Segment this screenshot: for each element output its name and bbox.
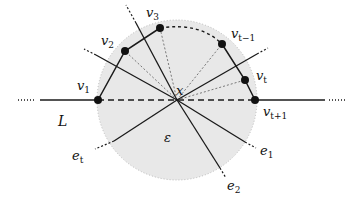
label-vt+1: vt+1	[263, 104, 287, 121]
label-L: L	[57, 113, 67, 129]
label-epsilon: ε	[164, 130, 171, 145]
vertex-vt-1	[218, 40, 226, 48]
label-v3: v3	[146, 5, 159, 22]
diagram-canvas: v1 v2 v3 vt−1 vt vt+1 x ε L et e1 e2	[0, 0, 363, 202]
vertex-vt	[241, 76, 249, 84]
label-vt-1: vt−1	[231, 26, 255, 43]
label-vt: vt	[256, 68, 267, 85]
label-v2: v2	[101, 33, 114, 50]
label-x: x	[176, 83, 184, 98]
label-et: et	[72, 148, 84, 165]
vertex-v1	[94, 96, 102, 104]
vertex-v2	[121, 47, 129, 55]
vertex-v3	[156, 24, 164, 32]
label-e2: e2	[227, 178, 240, 195]
vertex-vt+1	[251, 96, 259, 104]
label-e1: e1	[260, 143, 273, 160]
label-v1: v1	[77, 78, 90, 95]
